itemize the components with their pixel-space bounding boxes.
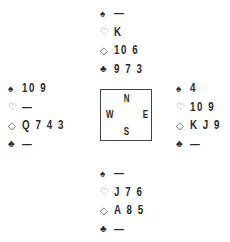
west-hearts-row: ♡ — <box>8 98 77 117</box>
west-clubs-row: ♣ — <box>8 135 77 154</box>
west-hand: ♠ 10 9 ♡ — ◇ Q 7 4 3 ♣ — <box>8 79 77 153</box>
north-diamonds-row: ◇ 10 6 <box>100 41 152 60</box>
club-icon: ♣ <box>100 223 114 234</box>
diamond-icon: ◇ <box>176 120 190 131</box>
heart-icon: ♡ <box>100 26 114 37</box>
north-hearts-cards: K <box>114 25 123 39</box>
heart-icon: ♡ <box>100 186 114 197</box>
east-clubs-cards: — <box>190 137 201 151</box>
south-spades-cards: — <box>114 166 125 180</box>
south-spades-row: ♠ — <box>100 164 153 183</box>
south-diamonds-cards: A 8 5 <box>114 203 145 217</box>
compass-south-label: S <box>124 126 129 137</box>
south-hearts-cards: J 7 6 <box>114 185 143 199</box>
diamond-icon: ◇ <box>8 120 22 131</box>
north-spades-row: ♠ — <box>100 4 152 23</box>
spade-icon: ♠ <box>176 83 190 94</box>
heart-icon: ♡ <box>176 101 190 112</box>
compass-east-label: E <box>143 109 148 120</box>
south-clubs-row: ♣ — <box>100 220 153 239</box>
west-spades-row: ♠ 10 9 <box>8 79 77 98</box>
east-hand: ♠ 4 ♡ 10 9 ◇ K J 9 ♣ — <box>176 79 230 153</box>
east-hearts-row: ♡ 10 9 <box>176 98 230 117</box>
west-diamonds-row: ◇ Q 7 4 3 <box>8 116 77 135</box>
south-clubs-cards: — <box>114 222 125 236</box>
north-spades-cards: — <box>114 6 125 20</box>
west-clubs-cards: — <box>22 137 33 151</box>
compass-west-label: W <box>106 109 114 120</box>
north-clubs-cards: 9 7 3 <box>114 62 143 76</box>
spade-icon: ♠ <box>100 8 114 19</box>
spade-icon: ♠ <box>100 168 114 179</box>
east-diamonds-row: ◇ K J 9 <box>176 116 230 135</box>
club-icon: ♣ <box>176 138 190 149</box>
south-hearts-row: ♡ J 7 6 <box>100 183 153 202</box>
east-clubs-row: ♣ — <box>176 135 230 154</box>
west-diamonds-cards: Q 7 4 3 <box>22 118 65 132</box>
north-hand: ♠ — ♡ K ◇ 10 6 ♣ 9 7 3 <box>100 4 152 78</box>
east-spades-cards: 4 <box>190 81 197 95</box>
east-hearts-cards: 10 9 <box>190 100 215 114</box>
north-hearts-row: ♡ K <box>100 23 152 42</box>
east-spades-row: ♠ 4 <box>176 79 230 98</box>
diamond-icon: ◇ <box>100 45 114 56</box>
club-icon: ♣ <box>100 63 114 74</box>
north-clubs-row: ♣ 9 7 3 <box>100 60 152 79</box>
west-hearts-cards: — <box>22 100 33 114</box>
diamond-icon: ◇ <box>100 205 114 216</box>
east-diamonds-cards: K J 9 <box>190 118 221 132</box>
compass-box: N W E S <box>100 89 152 141</box>
spade-icon: ♠ <box>8 83 22 94</box>
compass-north-label: N <box>124 93 130 104</box>
club-icon: ♣ <box>8 138 22 149</box>
north-diamonds-cards: 10 6 <box>114 43 139 57</box>
heart-icon: ♡ <box>8 101 22 112</box>
west-spades-cards: 10 9 <box>22 81 47 95</box>
south-hand: ♠ — ♡ J 7 6 ◇ A 8 5 ♣ — <box>100 164 153 238</box>
south-diamonds-row: ◇ A 8 5 <box>100 201 153 220</box>
